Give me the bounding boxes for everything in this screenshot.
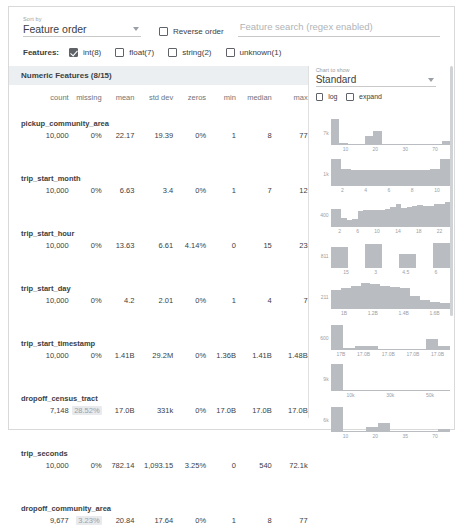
bar [370,170,380,185]
cell-mean: 20.84 [102,514,135,529]
checkbox-box-icon [346,93,354,101]
controls-panel: Sort by Feature order Reverse order Feat… [9,7,454,57]
bar [380,170,390,185]
histogram-chart[interactable]: 2111B1.2B1.4B1.6B [316,268,454,309]
feature-type-string-checkbox[interactable]: string(2) [168,48,211,57]
search-input[interactable] [238,20,444,33]
histogram-chart[interactable]: 8111534.56 [316,227,454,268]
plot-area: 10k30k50k [331,363,454,391]
col-header-median: median [236,85,272,109]
feature-name-row[interactable]: trip_seconds [9,439,308,459]
cell-min: 1 [206,184,236,199]
cell-max: 12 [272,184,308,199]
feature-type-unknown-checkbox[interactable]: unknown(1) [226,48,282,57]
feature-type-int-label: int(8) [83,48,101,57]
histogram-chart[interactable]: 60017B17.0B17.0B17.0B17.0B [316,309,454,350]
histogram-chart[interactable]: 4002610141822 [316,186,454,227]
bar-series [331,281,450,309]
table-row: 9,6773.23%20.8417.640%1877 [9,514,308,529]
histogram-chart[interactable]: 9k10k30k50k [316,350,454,391]
cell-missing: 0% [69,239,102,254]
cell-mean: 4.2 [102,294,135,309]
missing-alert-badge: 3.23% [76,516,101,525]
bar [341,288,351,308]
cell-mean: 22.17 [102,129,135,144]
cell-zeros: 0% [173,129,206,144]
reverse-order-label: Reverse order [173,27,224,36]
cell-min: 0 [206,459,236,474]
chart-to-show-select[interactable]: Standard [316,74,436,87]
cell-count: 10,000 [9,129,69,144]
chart-to-show-value: Standard [316,74,357,85]
feature-name-row[interactable]: dropoff_community_area [9,494,308,514]
feature-name-row[interactable]: pickup_community_area [9,109,308,129]
feature-name: trip_start_month [9,164,308,184]
bar [331,325,343,350]
bar [426,431,438,432]
row-spacer [9,364,308,384]
cell-missing: 0% [69,459,102,474]
sort-by-value: Feature order [23,23,87,35]
histogram-chart[interactable]: 6k10203570 [316,391,454,432]
cell-mean: 6.63 [102,184,135,199]
cell-mean: 17.0B [102,404,135,419]
feature-name-row[interactable]: trip_start_timestamp [9,329,308,349]
log-scale-checkbox[interactable]: log [316,93,338,101]
feature-name-row[interactable]: trip_start_hour [9,219,308,239]
feature-type-float-label: float(7) [129,48,154,57]
bar-series [331,240,450,268]
cell-mean: 782.14 [102,459,135,474]
plot-area: 10203570 [331,404,454,432]
bar [420,170,430,186]
feature-type-string-label: string(2) [182,48,211,57]
checkbox-box-icon [159,27,168,36]
cell-count: 9,677 [9,514,69,529]
table-header-row: count missing mean std dev zeros min med… [9,85,308,109]
feature-search-field[interactable] [238,16,440,37]
histogram-list: 7k102030701k24681040026101418228111534.5… [316,104,454,432]
bar [331,247,348,267]
cell-min: 1 [206,129,236,144]
feature-type-unknown-label: unknown(1) [240,48,282,57]
bar [390,287,400,309]
y-axis-label: 9k [316,376,331,391]
table-row: 10,0000%6.633.40%1712 [9,184,308,199]
bar [414,431,426,432]
feature-name: trip_start_timestamp [9,329,308,349]
sort-by-select[interactable]: Feature order [23,23,141,37]
vertical-scrollbar[interactable] [450,66,453,316]
y-axis-label: 1k [316,171,331,186]
features-label: Features: [23,48,59,57]
feature-type-int-checkbox[interactable]: int(8) [69,48,101,57]
cell-std-dev: 19.39 [134,129,173,144]
row-spacer [9,199,308,219]
checkbox-box-icon [316,93,324,101]
cell-zeros: 0% [173,294,206,309]
cell-median: 8 [236,514,272,529]
feature-type-float-checkbox[interactable]: float(7) [115,48,154,57]
cell-median: 540 [236,459,272,474]
plot-area: 1534.56 [331,240,454,268]
feature-name-row[interactable]: dropoff_census_tract [9,384,308,404]
bar-series [331,199,450,227]
reverse-order-checkbox[interactable]: Reverse order [159,27,224,36]
expand-checkbox[interactable]: expand [346,93,381,101]
bar [331,290,341,308]
cell-max: 72.1k [272,459,308,474]
bar [331,407,343,432]
bar [433,243,450,268]
bar-series [331,117,450,145]
histogram-chart[interactable]: 1k246810 [316,145,454,186]
features-table-section: Numeric Features (8/15) count missing me… [9,66,454,418]
plot-area: 10203070 [331,117,454,145]
feature-name-row[interactable]: trip_start_month [9,164,308,184]
cell-count: 10,000 [9,294,69,309]
feature-name-row[interactable]: trip_start_day [9,274,308,294]
bar [341,169,351,185]
bar [438,429,450,431]
feature-name: trip_start_hour [9,219,308,239]
plot-area: 17B17.0B17.0B17.0B17.0B [331,322,454,350]
histogram-chart[interactable]: 7k10203070 [316,104,454,145]
controls-row-primary: Sort by Feature order Reverse order [23,15,440,37]
bar [410,170,420,186]
